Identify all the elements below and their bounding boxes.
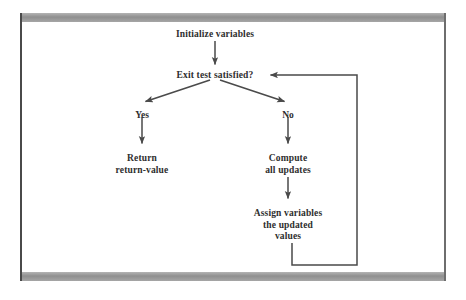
flowchart-page: Initialize variables Exit test satisfied…: [0, 0, 466, 300]
edge-exit-test-to-yes: [146, 80, 211, 102]
branch-label-yes: Yes: [135, 110, 149, 121]
edge-exit-test-to-no: [220, 80, 285, 102]
node-assign: Assign variables the updated values: [254, 208, 323, 243]
node-return: Return return-value: [116, 153, 169, 176]
branch-label-no: No: [282, 110, 294, 121]
node-compute: Compute all updates: [265, 153, 311, 176]
node-initialize: Initialize variables: [176, 29, 254, 41]
flowchart-canvas: [0, 0, 466, 300]
node-exit-test: Exit test satisfied?: [177, 70, 254, 82]
